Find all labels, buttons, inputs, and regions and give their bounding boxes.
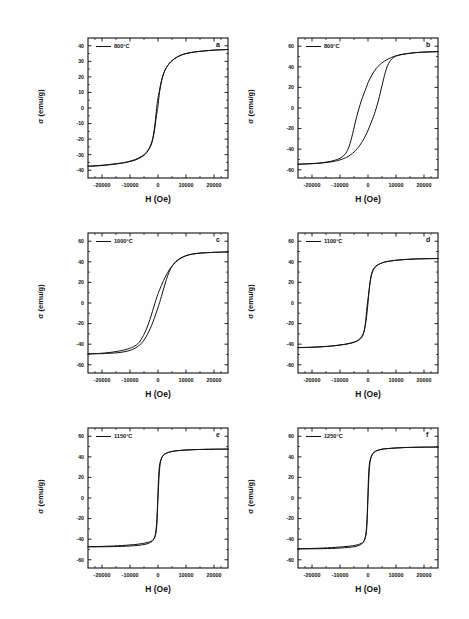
y-tick-label: -40: [77, 536, 85, 542]
x-tick-label: -20000: [304, 182, 321, 188]
panel-a: 403020100-10-20-30-40-20000-100000100002…: [30, 22, 240, 222]
plot-area-c: 6040200-20-40-60-20000-1000001000020000: [30, 217, 240, 417]
x-tick-label: -20000: [94, 182, 111, 188]
y-tick-label: 40: [78, 454, 84, 460]
curve-upper-branch: [298, 52, 438, 165]
panel-letter-f: f: [426, 431, 428, 438]
x-tick-label: -10000: [122, 572, 139, 578]
x-tick-label: 0: [157, 572, 160, 578]
y-tick-label: -60: [287, 362, 295, 368]
y-tick-label: 30: [78, 58, 84, 64]
x-tick-label: 10000: [179, 572, 194, 578]
x-tick-label: 0: [367, 572, 370, 578]
legend-c: 1000°C: [96, 238, 133, 244]
x-tick-label: 10000: [389, 377, 404, 383]
y-axis-label: σ (emu/g): [36, 451, 45, 543]
curve-lower-branch: [88, 50, 228, 167]
y-tick-label: 40: [288, 64, 294, 70]
y-axis-label: σ (emu/g): [246, 256, 255, 348]
y-tick-label: -20: [287, 320, 295, 326]
y-tick-label: 60: [78, 433, 84, 439]
legend-line-swatch: [306, 46, 321, 47]
plot-area-f: 6040200-20-40-60-20000-1000001000020000: [240, 412, 450, 612]
curve-lower-branch: [298, 259, 438, 348]
legend-label: 1150°C: [114, 433, 132, 439]
x-tick-label: 20000: [207, 182, 222, 188]
legend-a: 800°C: [96, 43, 130, 49]
x-tick-label: -20000: [94, 572, 111, 578]
x-axis-label: H (Oe): [88, 194, 228, 204]
y-tick-label: 20: [78, 74, 84, 80]
y-tick-label: -60: [77, 362, 85, 368]
y-tick-label: 20: [288, 84, 294, 90]
x-tick-label: 0: [367, 377, 370, 383]
x-axis-label: H (Oe): [88, 389, 228, 399]
legend-label: 1250°C: [324, 433, 343, 439]
y-tick-label: -60: [287, 557, 295, 563]
legend-label: 800°C: [324, 43, 340, 49]
y-tick-label: -30: [77, 152, 85, 158]
y-tick-label: -40: [287, 341, 295, 347]
y-tick-label: -20: [77, 136, 85, 142]
y-tick-label: -40: [77, 341, 85, 347]
x-tick-label: 10000: [389, 572, 404, 578]
x-tick-label: 0: [367, 182, 370, 188]
y-tick-label: 0: [291, 105, 294, 111]
legend-b: 800°C: [306, 43, 340, 49]
legend-label: 1100°C: [324, 238, 342, 244]
legend-label: 800°C: [114, 43, 130, 49]
x-tick-label: 0: [157, 377, 160, 383]
legend-line-swatch: [96, 46, 111, 47]
y-tick-label: 20: [78, 474, 84, 480]
y-tick-label: -40: [287, 536, 295, 542]
y-tick-label: -20: [287, 515, 295, 521]
panel-letter-a: a: [216, 41, 220, 48]
x-tick-label: 20000: [207, 377, 222, 383]
curve-lower-branch: [88, 449, 228, 547]
y-tick-label: 10: [78, 89, 84, 95]
y-axis-label: σ (emu/g): [246, 61, 255, 153]
y-tick-label: 60: [288, 238, 294, 244]
x-tick-label: 20000: [417, 182, 432, 188]
y-axis-label: σ (emu/g): [36, 256, 45, 348]
panel-letter-d: d: [426, 236, 430, 243]
y-tick-label: 60: [78, 238, 84, 244]
y-tick-label: 40: [288, 454, 294, 460]
panel-letter-e: e: [216, 431, 220, 438]
y-tick-label: -60: [77, 557, 85, 563]
x-tick-label: -20000: [94, 377, 111, 383]
y-tick-label: 40: [78, 259, 84, 265]
plot-area-a: 403020100-10-20-30-40-20000-100000100002…: [30, 22, 240, 222]
y-tick-label: 20: [78, 279, 84, 285]
y-tick-label: 40: [288, 259, 294, 265]
x-tick-label: -10000: [122, 182, 139, 188]
curve-upper-branch: [88, 252, 228, 354]
plot-area-d: 6040200-20-40-60-20000-1000001000020000: [240, 217, 450, 417]
legend-label: 1000°C: [114, 238, 133, 244]
x-axis-label: H (Oe): [88, 584, 228, 594]
legend-f: 1250°C: [306, 433, 343, 439]
panel-f: 6040200-20-40-60-20000-1000001000020000σ…: [240, 412, 450, 612]
legend-line-swatch: [306, 436, 321, 437]
x-tick-label: -20000: [304, 572, 321, 578]
legend-d: 1100°C: [306, 238, 342, 244]
x-axis-label: H (Oe): [298, 194, 438, 204]
y-tick-label: 20: [288, 279, 294, 285]
plot-area-b: 6040200-20-40-60-20000-1000001000020000: [240, 22, 450, 222]
y-axis-label: σ (emu/g): [246, 451, 255, 543]
y-tick-label: 40: [78, 43, 84, 49]
legend-line-swatch: [96, 436, 111, 437]
y-tick-label: 0: [81, 495, 84, 501]
x-tick-label: 20000: [417, 377, 432, 383]
panel-c: 6040200-20-40-60-20000-1000001000020000σ…: [30, 217, 240, 417]
x-axis-label: H (Oe): [298, 584, 438, 594]
plot-area-e: 6040200-20-40-60-20000-1000001000020000: [30, 412, 240, 612]
y-tick-label: 60: [288, 43, 294, 49]
y-tick-label: 0: [81, 105, 84, 111]
curve-lower-branch: [298, 52, 438, 165]
x-tick-label: 10000: [389, 182, 404, 188]
y-tick-label: 0: [291, 300, 294, 306]
y-tick-label: 20: [288, 474, 294, 480]
curve-lower-branch: [88, 252, 228, 354]
panel-letter-b: b: [426, 41, 430, 48]
